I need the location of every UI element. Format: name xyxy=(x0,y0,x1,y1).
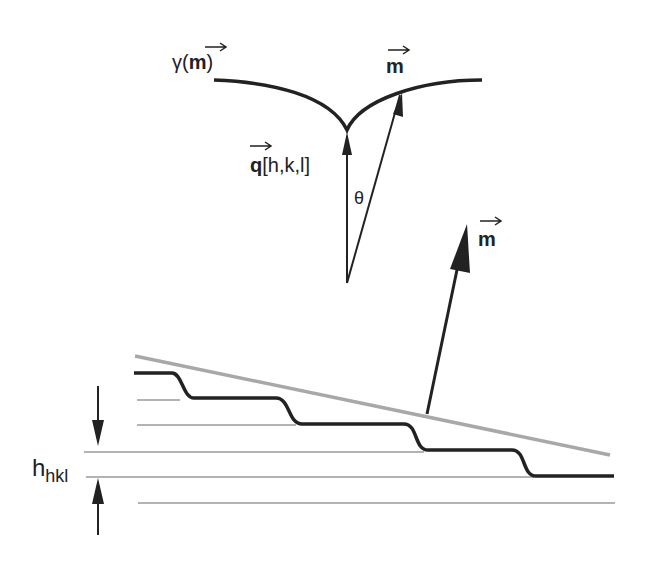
gamma-m-vector-arrow-icon xyxy=(205,43,226,51)
surface-normal-arrow xyxy=(427,265,458,414)
q-arrowhead-icon xyxy=(342,132,352,155)
m-lower-label: m xyxy=(478,228,496,250)
vicinal-surface-line xyxy=(135,356,610,455)
m-arrowhead-icon xyxy=(393,93,403,117)
theta-label: θ xyxy=(354,188,364,208)
m-top-label: m xyxy=(386,55,404,77)
m-top-vector-arrow-icon xyxy=(388,46,409,54)
surface-normal-arrowhead-icon xyxy=(450,224,470,273)
m-lower-vector-arrow-icon xyxy=(480,217,501,225)
vicinal-surface-diagram: γ(m) m q[h,k,l] θ m hhkl xyxy=(0,0,646,567)
step-height-label: hhkl xyxy=(32,454,68,486)
step-height-arrowhead-up-icon xyxy=(92,478,104,504)
lattice-planes xyxy=(84,400,615,503)
q-label: q[h,k,l] xyxy=(250,154,310,176)
gamma-curve xyxy=(214,80,482,130)
diagram-canvas: γ(m) m q[h,k,l] θ m hhkl xyxy=(0,0,646,567)
gamma-label: γ(m) xyxy=(172,51,213,73)
q-vector-arrow-icon xyxy=(250,142,271,150)
step-height-arrowhead-down-icon xyxy=(92,420,104,446)
